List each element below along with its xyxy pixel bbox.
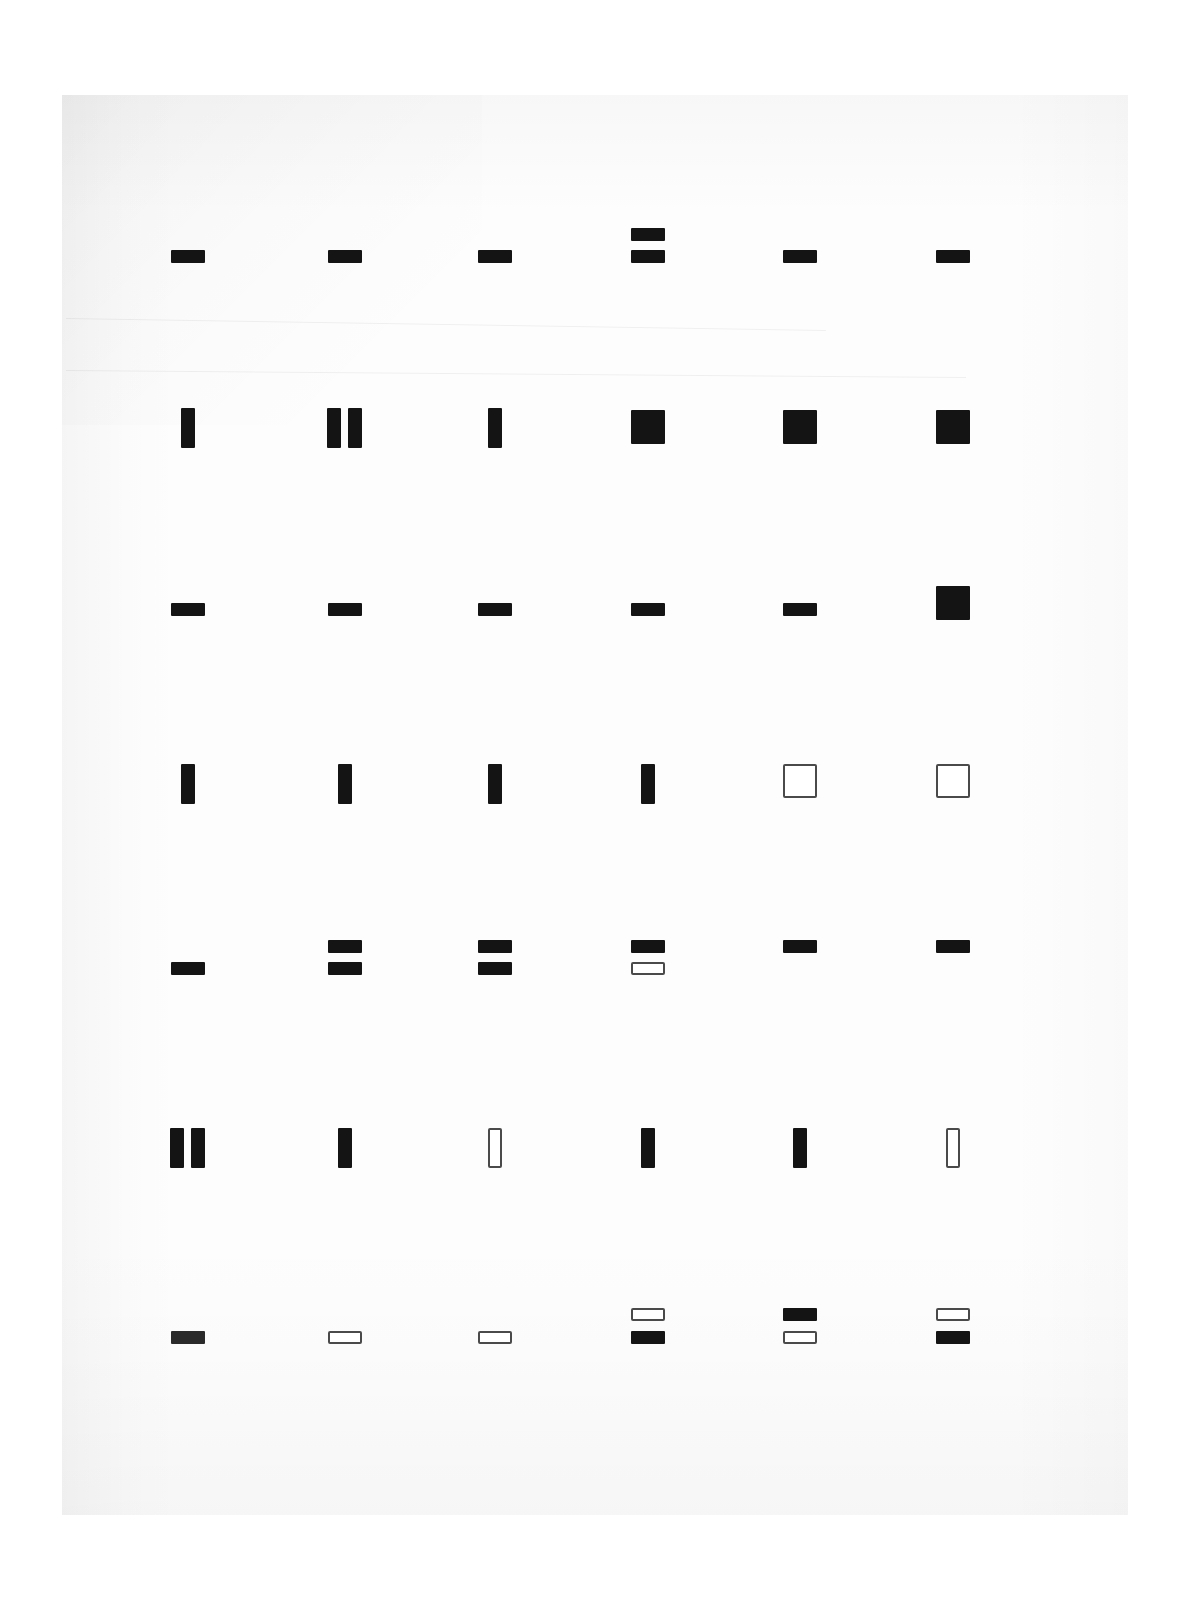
mark-filled-hbar-r1-c1-1 [171,250,205,263]
mark-filled-vbar-r4-c1-1 [181,764,195,804]
mark-filled-soft-hbar-r7-c1-1 [171,1331,205,1344]
mark-filled-hbar-r7-c6-2 [936,1331,970,1344]
mark-filled-vbar-r6-c2-1 [338,1128,352,1168]
mark-filled-square-r2-c4-1 [631,410,665,444]
scan-canvas [0,0,1198,1604]
mark-filled-hbar-r5-c3-1 [478,940,512,953]
mark-filled-hbar-r5-c2-1 [328,940,362,953]
mark-filled-vbar-r4-c3-1 [488,764,502,804]
mark-filled-hbar-r7-c5-1 [783,1308,817,1321]
mark-hollow-square-r4-c5-1 [783,764,817,798]
mark-hollow-hbar-r7-c3-1 [478,1331,512,1344]
mark-filled-vbar-r6-c1-2 [191,1128,205,1168]
mark-hollow-vbar-r6-c6-1 [946,1128,960,1168]
mark-filled-hbar-r3-c3-1 [478,603,512,616]
mark-filled-vbar-r2-c2-1 [327,408,341,448]
mark-filled-hbar-r5-c5-1 [783,940,817,953]
mark-filled-vbar-r6-c1-1 [170,1128,184,1168]
mark-filled-square-r3-c6-1 [936,586,970,620]
mark-filled-vbar-r4-c4-1 [641,764,655,804]
mark-filled-hbar-r1-c4-1 [631,228,665,241]
mark-hollow-vbar-r6-c3-1 [488,1128,502,1168]
mark-filled-vbar-r6-c4-1 [641,1128,655,1168]
mark-filled-hbar-r1-c6-1 [936,250,970,263]
mark-filled-hbar-r3-c5-1 [783,603,817,616]
mark-filled-hbar-r5-c6-1 [936,940,970,953]
mark-hollow-square-r4-c6-1 [936,764,970,798]
mark-hollow-hbar-r7-c5-2 [783,1331,817,1344]
mark-hollow-hbar-r7-c4-1 [631,1308,665,1321]
mark-filled-square-r2-c6-1 [936,410,970,444]
mark-filled-hbar-r5-c1-1 [171,962,205,975]
mark-filled-vbar-r2-c1-1 [181,408,195,448]
mark-filled-hbar-r1-c3-1 [478,250,512,263]
mark-filled-hbar-r1-c5-1 [783,250,817,263]
mark-filled-hbar-r5-c2-2 [328,962,362,975]
mark-filled-hbar-r5-c3-2 [478,962,512,975]
mark-filled-hbar-r1-c4-2 [631,250,665,263]
mark-filled-vbar-r2-c2-2 [348,408,362,448]
glyph-grid [0,0,1198,1604]
mark-filled-vbar-r2-c3-1 [488,408,502,448]
mark-hollow-hbar-r5-c4-2 [631,962,665,975]
mark-filled-hbar-r3-c4-1 [631,603,665,616]
mark-filled-hbar-r5-c4-1 [631,940,665,953]
mark-filled-vbar-r6-c5-1 [793,1128,807,1168]
mark-filled-hbar-r7-c4-2 [631,1331,665,1344]
mark-filled-square-r2-c5-1 [783,410,817,444]
mark-filled-hbar-r1-c2-1 [328,250,362,263]
mark-filled-hbar-r3-c1-1 [171,603,205,616]
mark-filled-vbar-r4-c2-1 [338,764,352,804]
mark-hollow-hbar-r7-c2-1 [328,1331,362,1344]
mark-hollow-hbar-r7-c6-1 [936,1308,970,1321]
mark-filled-hbar-r3-c2-1 [328,603,362,616]
